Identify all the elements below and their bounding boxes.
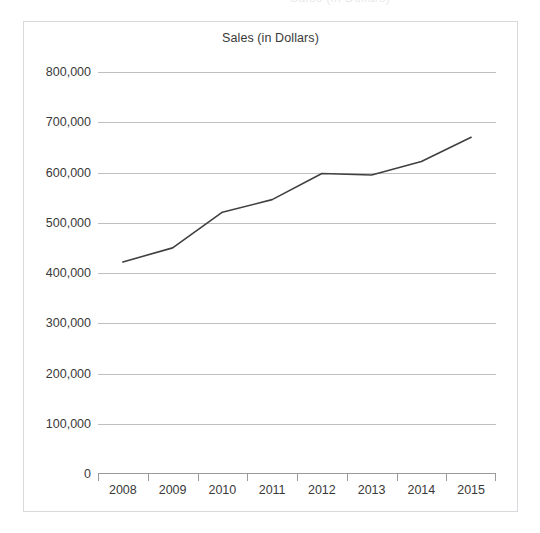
cropped-header-text: Sales (in Dollars) — [290, 0, 390, 5]
x-axis-tick-label: 2010 — [208, 483, 236, 497]
y-axis-tick-label: 200,000 — [46, 367, 91, 381]
sales-line — [123, 137, 471, 262]
y-axis-tick-label: 100,000 — [46, 417, 91, 431]
y-axis-tick-label: 0 — [84, 467, 91, 481]
x-axis-tick-label: 2011 — [259, 483, 286, 497]
x-axis-tick — [297, 474, 298, 481]
x-axis-tick — [347, 474, 348, 481]
cropped-header-sliver: Sales (in Dollars) — [0, 0, 540, 14]
y-axis-tick-label: 500,000 — [46, 216, 91, 230]
x-axis-tick — [397, 474, 398, 481]
x-axis-tick — [446, 474, 447, 481]
x-axis-tick — [198, 474, 199, 481]
x-axis-tick — [98, 474, 99, 481]
plot-area: 20082009201020112012201320142015 — [98, 72, 496, 474]
y-axis-tick-label: 400,000 — [46, 266, 91, 280]
x-axis-tick-label: 2013 — [358, 483, 386, 497]
chart-frame: Sales (in Dollars) 0100,000200,000300,00… — [23, 21, 518, 512]
y-axis-tick-label: 700,000 — [46, 115, 91, 129]
y-axis-labels: 0100,000200,000300,000400,000500,000600,… — [24, 72, 91, 474]
x-axis-tick-label: 2014 — [407, 483, 435, 497]
x-axis-tick-label: 2009 — [159, 483, 187, 497]
x-axis-tick-label: 2012 — [308, 483, 336, 497]
x-axis-tick — [247, 474, 248, 481]
y-axis-tick-label: 300,000 — [46, 316, 91, 330]
y-axis-tick-label: 800,000 — [46, 65, 91, 79]
x-axis-tick — [148, 474, 149, 481]
y-axis-tick-label: 600,000 — [46, 166, 91, 180]
x-axis-tick-label: 2008 — [109, 483, 137, 497]
x-axis-tick — [495, 474, 496, 481]
line-series-svg — [98, 72, 496, 474]
chart-title: Sales (in Dollars) — [24, 31, 517, 45]
x-axis-tick-label: 2015 — [457, 483, 485, 497]
